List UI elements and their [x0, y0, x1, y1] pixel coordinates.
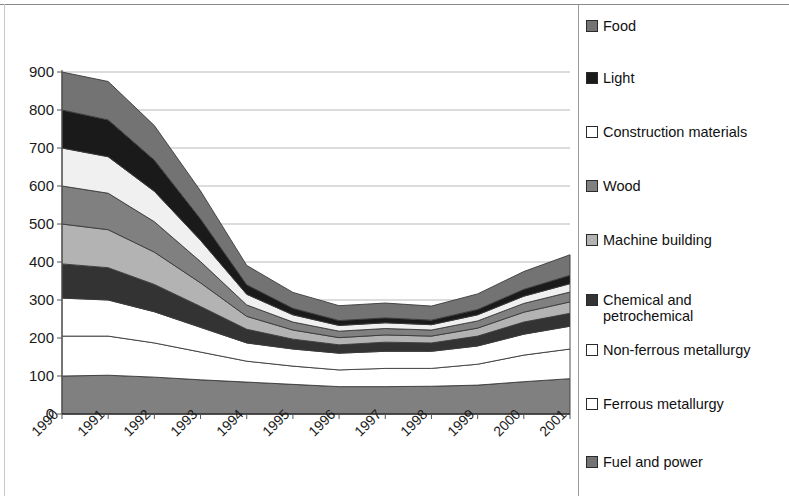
- legend-swatch-icon: [586, 294, 598, 306]
- chart-legend: FoodLightConstruction materialsWoodMachi…: [586, 0, 789, 496]
- legend-item[interactable]: Wood: [586, 178, 786, 194]
- legend-swatch-icon: [586, 456, 598, 468]
- legend-item-label: Construction materials: [603, 124, 747, 140]
- legend-item[interactable]: Food: [586, 18, 786, 34]
- legend-item[interactable]: Light: [586, 70, 786, 86]
- y-axis-tick-label: 600: [12, 177, 54, 194]
- area-series-group: [62, 72, 570, 414]
- legend-swatch-icon: [586, 126, 598, 138]
- legend-item[interactable]: Chemical and petrochemical: [586, 292, 786, 324]
- y-axis-tick-label: 100: [12, 367, 54, 384]
- y-axis-tick-label: 200: [12, 329, 54, 346]
- legend-item-label: Machine building: [603, 232, 712, 248]
- stacked-area-chart: 9008007006005004003002001000 19901991199…: [0, 0, 578, 496]
- y-axis-tick-label: 500: [12, 215, 54, 232]
- y-axis-tick-label: 300: [12, 291, 54, 308]
- y-axis-tick-label: 800: [12, 101, 54, 118]
- legend-item-label: Fuel and power: [603, 454, 703, 470]
- legend-item-label: Ferrous metallurgy: [603, 396, 724, 412]
- legend-swatch-icon: [586, 344, 598, 356]
- legend-item[interactable]: Fuel and power: [586, 454, 786, 470]
- y-axis-tick-label: 900: [12, 63, 54, 80]
- legend-item-label: Non-ferrous metallurgy: [603, 342, 750, 358]
- legend-swatch-icon: [586, 72, 598, 84]
- legend-swatch-icon: [586, 180, 598, 192]
- legend-item-label: Chemical and petrochemical: [603, 292, 693, 324]
- legend-item-label: Light: [603, 70, 634, 86]
- chart-page: 9008007006005004003002001000 19901991199…: [0, 0, 789, 496]
- legend-item[interactable]: Ferrous metallurgy: [586, 396, 786, 412]
- y-axis-tick-label: 700: [12, 139, 54, 156]
- legend-item-label: Wood: [603, 178, 641, 194]
- y-tick-marks: [57, 72, 62, 414]
- legend-item[interactable]: Machine building: [586, 232, 786, 248]
- legend-item-label: Food: [603, 18, 636, 34]
- legend-swatch-icon: [586, 398, 598, 410]
- legend-swatch-icon: [586, 234, 598, 246]
- legend-swatch-icon: [586, 20, 598, 32]
- legend-divider: [578, 5, 579, 496]
- legend-item[interactable]: Non-ferrous metallurgy: [586, 342, 786, 358]
- y-axis-tick-label: 400: [12, 253, 54, 270]
- legend-item[interactable]: Construction materials: [586, 124, 786, 140]
